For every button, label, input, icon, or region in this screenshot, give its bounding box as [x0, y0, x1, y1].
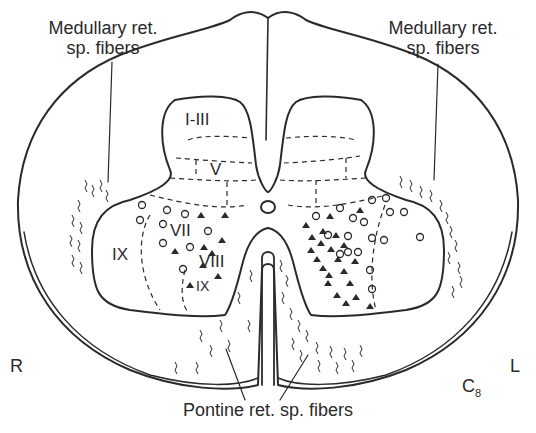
medullary-label-left: Medullary ret. sp. fibers [28, 18, 178, 58]
spinal-cord-cross-section [0, 0, 536, 433]
segment-letter: C [462, 376, 475, 396]
segment-label: C8 [462, 376, 481, 398]
lamina-label-ix-medial: IX [196, 278, 209, 294]
lamina-label-vii: VII [170, 221, 191, 241]
medullary-label-right: Medullary ret. sp. fibers [368, 18, 518, 58]
lamina-label-v: V [210, 160, 221, 180]
medullary-label-left-line1: Medullary ret. [28, 18, 178, 38]
side-label-right: R [10, 356, 23, 376]
gray-matter-right-side [92, 100, 268, 316]
circle-markers [137, 195, 424, 293]
fiber-squiggles [70, 176, 462, 374]
medullary-label-left-line2: sp. fibers [28, 38, 178, 58]
gray-matter-left-side [268, 100, 444, 316]
lamina-label-viii: VIII [199, 252, 225, 272]
lamina-label-ix-lateral: IX [112, 245, 128, 265]
medullary-label-right-line2: sp. fibers [368, 38, 518, 58]
segment-number: 8 [475, 387, 481, 399]
lamina-label-i-iii: I-III [185, 110, 210, 130]
side-label-left: L [510, 356, 520, 376]
medullary-label-right-line1: Medullary ret. [368, 18, 518, 38]
pontine-label: Pontine ret. sp. fibers [148, 400, 388, 420]
